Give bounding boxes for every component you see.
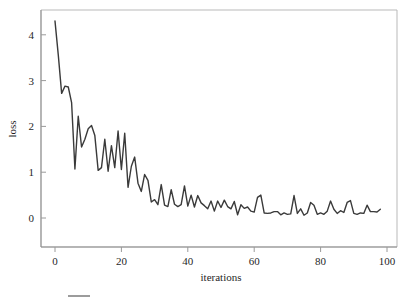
y-axis-title: loss [6, 120, 18, 137]
y-tick-marks [41, 35, 46, 218]
loss-series-line [55, 21, 380, 215]
x-tick-label-80: 80 [315, 255, 327, 267]
y-tick-label-2: 2 [29, 120, 35, 132]
y-tick-label-1: 1 [29, 166, 35, 178]
chart-canvas: 0 1 2 3 4 0 20 40 60 80 100 iterations l… [0, 0, 412, 301]
y-tick-label-3: 3 [29, 75, 35, 87]
y-tick-labels: 0 1 2 3 4 [29, 29, 35, 224]
loss-curve-figure: 0 1 2 3 4 0 20 40 60 80 100 iterations l… [0, 0, 412, 301]
y-tick-label-4: 4 [29, 29, 35, 41]
x-tick-marks [55, 247, 387, 252]
y-tick-label-0: 0 [29, 212, 35, 224]
x-tick-label-60: 60 [249, 255, 261, 267]
x-tick-labels: 0 20 40 60 80 100 [52, 255, 396, 267]
x-tick-label-100: 100 [379, 255, 396, 267]
x-tick-label-20: 20 [116, 255, 128, 267]
x-axis-title: iterations [201, 271, 242, 283]
figure-caption-strip [0, 291, 412, 301]
x-tick-label-0: 0 [52, 255, 58, 267]
x-tick-label-40: 40 [182, 255, 194, 267]
caption-rule [68, 295, 90, 297]
